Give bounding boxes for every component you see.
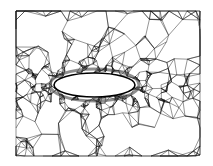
- elliptical-body: [54, 73, 135, 97]
- mesh-canvas: [0, 0, 213, 166]
